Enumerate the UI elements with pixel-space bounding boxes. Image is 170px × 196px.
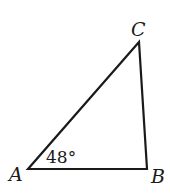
vertex-label-b: B [150,165,165,187]
vertex-label-c: C [131,18,146,40]
angle-a-label: 48° [46,147,76,167]
vertex-label-a: A [7,163,23,185]
triangle-diagram: A B C 48° [0,0,170,196]
